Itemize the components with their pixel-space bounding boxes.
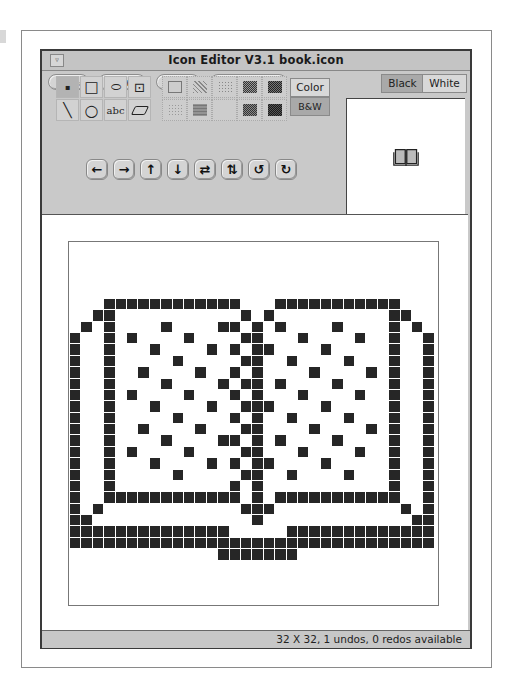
pixel-cell[interactable]	[366, 538, 376, 548]
pixel-cell[interactable]	[104, 470, 114, 480]
shift-left-button[interactable]: ←	[86, 159, 108, 180]
pixel-cell[interactable]	[423, 435, 433, 445]
text-tool[interactable]: abc	[104, 99, 127, 121]
pixel-cell[interactable]	[401, 538, 411, 548]
pixel-cell[interactable]	[104, 401, 114, 411]
pixel-cell[interactable]	[378, 538, 388, 548]
pixel-cell[interactable]	[116, 299, 126, 309]
fill-pattern-darkest[interactable]	[262, 99, 287, 121]
pixel-cell[interactable]	[298, 299, 308, 309]
pixel-cell[interactable]	[332, 435, 342, 445]
pixel-cell[interactable]	[389, 526, 399, 536]
pixel-cell[interactable]	[184, 538, 194, 548]
pixel-cell[interactable]	[81, 526, 91, 536]
pixel-cell[interactable]	[173, 356, 183, 366]
pixel-cell[interactable]	[184, 390, 194, 400]
pixel-cell[interactable]	[389, 367, 399, 377]
pixel-cell[interactable]	[138, 424, 148, 434]
pixel-cell[interactable]	[218, 549, 228, 559]
pixel-cell[interactable]	[104, 367, 114, 377]
rotate-right-button[interactable]: ↻	[275, 159, 297, 180]
pixel-cell[interactable]	[70, 435, 80, 445]
pixel-cell[interactable]	[309, 299, 319, 309]
pixel-cell[interactable]	[81, 515, 91, 525]
pixel-cell[interactable]	[252, 549, 262, 559]
pixel-cell[interactable]	[207, 401, 217, 411]
pixel-cell[interactable]	[70, 447, 80, 457]
pixel-cell[interactable]	[70, 379, 80, 389]
pixel-cell[interactable]	[150, 299, 160, 309]
pixel-cell[interactable]	[230, 322, 240, 332]
pixel-cell[interactable]	[207, 526, 217, 536]
fill-pattern-light[interactable]	[187, 76, 212, 98]
pixel-cell[interactable]	[389, 424, 399, 434]
pixel-cell[interactable]	[70, 356, 80, 366]
pixel-cell[interactable]	[104, 322, 114, 332]
pixel-cell[interactable]	[138, 492, 148, 502]
shift-right-button[interactable]: →	[113, 159, 135, 180]
pixel-cell[interactable]	[389, 310, 399, 320]
pixel-cell[interactable]	[70, 401, 80, 411]
rotate-left-button[interactable]: ↺	[248, 159, 270, 180]
pixel-cell[interactable]	[70, 344, 80, 354]
pixel-cell[interactable]	[252, 344, 262, 354]
pixel-cell[interactable]	[321, 344, 331, 354]
pixel-cell[interactable]	[378, 526, 388, 536]
pixel-cell[interactable]	[252, 367, 262, 377]
pixel-cell[interactable]	[252, 390, 262, 400]
pixel-cell[interactable]	[104, 424, 114, 434]
pixel-cell[interactable]	[355, 299, 365, 309]
pixel-cell[interactable]	[104, 356, 114, 366]
pixel-cell[interactable]	[264, 401, 274, 411]
pixel-cell[interactable]	[389, 481, 399, 491]
pixel-cell[interactable]	[309, 367, 319, 377]
pixel-cell[interactable]	[366, 424, 376, 434]
pixel-cell[interactable]	[104, 333, 114, 343]
title-bar[interactable]: ▿ Icon Editor V3.1 book.icon	[42, 51, 470, 71]
pixel-cell[interactable]	[378, 492, 388, 502]
pixel-cell[interactable]	[104, 344, 114, 354]
pixel-cell[interactable]	[321, 538, 331, 548]
pixel-cell[interactable]	[195, 367, 205, 377]
pixel-cell[interactable]	[104, 447, 114, 457]
pixel-cell[interactable]	[378, 299, 388, 309]
pixel-cell[interactable]	[252, 481, 262, 491]
shift-up-button[interactable]: ↑	[140, 159, 162, 180]
pixel-cell[interactable]	[184, 333, 194, 343]
pixel-cell[interactable]	[173, 492, 183, 502]
pixel-cell[interactable]	[195, 526, 205, 536]
pixel-cell[interactable]	[70, 458, 80, 468]
pixel-cell[interactable]	[195, 299, 205, 309]
pixel-cell[interactable]	[218, 379, 228, 389]
pixel-cell[interactable]	[93, 526, 103, 536]
pixel-cell[interactable]	[150, 458, 160, 468]
pixel-cell[interactable]	[321, 492, 331, 502]
pixel-cell[interactable]	[241, 447, 251, 457]
pixel-cell[interactable]	[355, 526, 365, 536]
pixel-cell[interactable]	[423, 401, 433, 411]
pixel-cell[interactable]	[389, 447, 399, 457]
pixel-cell[interactable]	[423, 333, 433, 343]
pixel-cell[interactable]	[230, 492, 240, 502]
pixel-cell[interactable]	[287, 356, 297, 366]
pixel-cell[interactable]	[127, 526, 137, 536]
pixel-cell[interactable]	[241, 333, 251, 343]
pixel-cell[interactable]	[161, 526, 171, 536]
pixel-cell[interactable]	[127, 538, 137, 548]
pixel-cell[interactable]	[70, 413, 80, 423]
pixel-cell[interactable]	[195, 538, 205, 548]
pixel-cell[interactable]	[412, 322, 422, 332]
pixel-cell[interactable]	[138, 367, 148, 377]
pixel-cell[interactable]	[389, 333, 399, 343]
pixel-cell[interactable]	[184, 526, 194, 536]
pixel-cell[interactable]	[70, 470, 80, 480]
pixel-cell[interactable]	[252, 515, 262, 525]
pixel-cell[interactable]	[423, 538, 433, 548]
pixel-cell[interactable]	[275, 299, 285, 309]
pixel-cell[interactable]	[287, 526, 297, 536]
pixel-cell[interactable]	[93, 310, 103, 320]
circle-tool[interactable]: ○	[80, 99, 103, 121]
pixel-cell[interactable]	[230, 458, 240, 468]
pixel-cell[interactable]	[252, 458, 262, 468]
pixel-cell[interactable]	[150, 492, 160, 502]
